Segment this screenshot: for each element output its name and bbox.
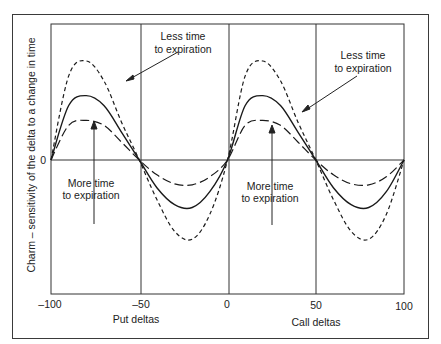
- annotation-less-right-2: to expiration: [334, 62, 391, 74]
- curve-long-dash: [51, 120, 404, 185]
- curves: [51, 61, 404, 240]
- y-axis-label: Charm – sensitivity of the delta to a ch…: [25, 37, 37, 272]
- x-tick-zero: 0: [224, 298, 230, 310]
- annotation-more-left-1: More time: [68, 177, 115, 189]
- x-tick-plus-100: 100: [395, 300, 413, 312]
- arrow-head-icon: [302, 105, 310, 112]
- x-tick-plus-50: 50: [310, 299, 322, 311]
- annotation-more-right-1: More time: [247, 180, 294, 192]
- annotation-arrows: [91, 52, 357, 225]
- charm-chart: Less time to expiration More time to exp…: [0, 0, 441, 344]
- annotation-less-right-1: Less time: [341, 49, 386, 61]
- annotation-less-left-1: Less time: [161, 30, 206, 42]
- arrow-less-right: [304, 76, 357, 111]
- annotation-more-right-2: to expiration: [241, 192, 298, 204]
- arrow-head-icon: [269, 125, 275, 133]
- x-tick-minus-100: –100: [38, 298, 62, 310]
- x-tick-minus-50: –50: [132, 298, 150, 310]
- curve-short-dash: [51, 61, 404, 240]
- x-label-put-deltas: Put deltas: [113, 313, 160, 325]
- x-label-call-deltas: Call deltas: [291, 316, 340, 328]
- annotation-more-left-2: to expiration: [62, 189, 119, 201]
- arrow-head-icon: [126, 75, 134, 81]
- arrow-less-left: [128, 52, 178, 80]
- annotation-less-left-2: to expiration: [154, 43, 211, 55]
- y-tick-zero: 0: [40, 154, 46, 166]
